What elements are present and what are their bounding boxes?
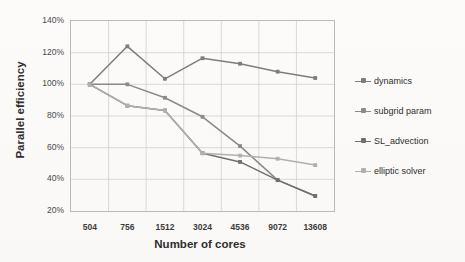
data-point <box>238 154 242 158</box>
legend-marker-icon <box>355 138 371 145</box>
series-canvas <box>71 21 334 211</box>
data-point <box>201 115 205 119</box>
data-point <box>313 76 317 80</box>
y-axis-tick-labels: 20%40%60%80%100%120%140% <box>28 0 64 262</box>
y-axis-tick: 100% <box>28 78 64 88</box>
data-point <box>125 104 129 108</box>
y-axis-tick: 60% <box>28 142 64 152</box>
x-axis-tick: 3024 <box>193 222 212 232</box>
y-axis-tick: 80% <box>28 110 64 120</box>
legend-label: SL_advection <box>374 136 429 146</box>
legend-item-sl-advection[interactable]: SL_advection <box>355 126 465 156</box>
data-point <box>125 44 129 48</box>
data-point <box>201 56 205 60</box>
y-axis-tick: 140% <box>28 15 64 25</box>
series-line <box>90 46 315 84</box>
data-point <box>313 194 317 198</box>
data-point <box>276 70 280 74</box>
legend-item-dynamics[interactable]: dynamics <box>355 66 465 96</box>
x-axis-tick: 4536 <box>231 222 250 232</box>
data-point <box>88 82 92 86</box>
parallel-efficiency-chart: Parallel efficiency 20%40%60%80%100%120%… <box>0 0 465 262</box>
x-axis-tick: 756 <box>120 222 134 232</box>
y-axis-tick: 120% <box>28 47 64 57</box>
plot-area <box>70 20 335 212</box>
data-point <box>125 82 129 86</box>
data-point <box>276 178 280 182</box>
data-point <box>238 144 242 148</box>
data-point <box>238 160 242 164</box>
data-point <box>201 151 205 155</box>
series-dynamics <box>88 44 317 86</box>
legend-label: subgrid param <box>374 106 432 116</box>
data-point <box>276 157 280 161</box>
legend-item-elliptic-solver[interactable]: elliptic solver <box>355 156 465 186</box>
legend-marker-icon <box>355 108 371 115</box>
x-axis-tick: 9072 <box>268 222 287 232</box>
data-point <box>163 96 167 100</box>
x-axis-tick: 13608 <box>303 222 327 232</box>
x-axis-title: Number of cores <box>60 238 340 250</box>
data-point <box>163 109 167 113</box>
series-elliptic-solver <box>88 82 317 167</box>
data-point <box>238 62 242 66</box>
x-axis-tick: 1512 <box>155 222 174 232</box>
legend-marker-icon <box>355 78 371 85</box>
series-sl-advection <box>88 82 317 197</box>
data-point <box>313 163 317 167</box>
y-axis-tick: 40% <box>28 173 64 183</box>
series-subgrid-param <box>88 82 317 197</box>
y-axis-title: Parallel efficiency <box>14 30 26 190</box>
legend-label: elliptic solver <box>374 166 426 176</box>
chart-legend: dynamicssubgrid paramSL_advectionellipti… <box>355 66 465 186</box>
legend-item-subgrid-param[interactable]: subgrid param <box>355 96 465 126</box>
legend-label: dynamics <box>374 76 412 86</box>
legend-marker-icon <box>355 168 371 175</box>
data-point <box>163 77 167 81</box>
x-axis-tick: 504 <box>83 222 97 232</box>
y-axis-tick: 20% <box>28 205 64 215</box>
